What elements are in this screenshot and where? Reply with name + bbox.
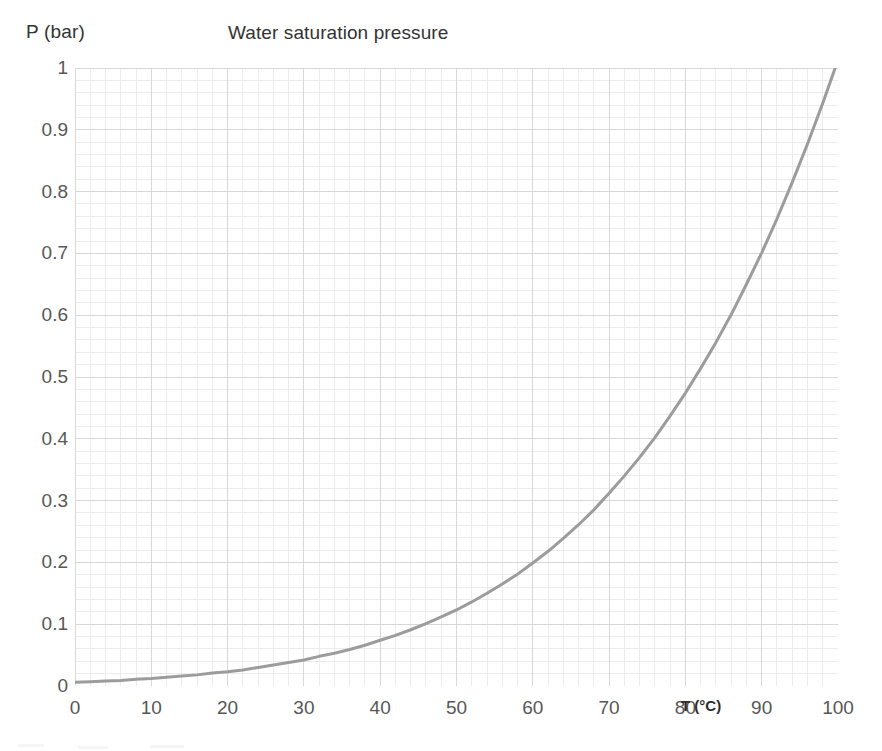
y-tick-label: 0.7 <box>8 242 68 264</box>
y-tick-label: 0.4 <box>8 428 68 450</box>
chart-title: Water saturation pressure <box>228 22 448 44</box>
x-axis-caption: T (°C) <box>681 697 721 714</box>
scan-artifact <box>78 746 108 749</box>
y-tick-label: 0 <box>8 675 68 697</box>
plot-area <box>75 68 838 686</box>
y-tick-label: 0.1 <box>8 613 68 635</box>
plot-canvas <box>75 68 838 686</box>
y-axis-tick-labels: 00.10.20.30.40.50.60.70.80.91 <box>0 0 68 751</box>
x-tick-label: 100 <box>822 697 854 719</box>
y-tick-label: 0.5 <box>8 366 68 388</box>
y-tick-label: 0.9 <box>8 119 68 141</box>
x-tick-label: 0 <box>70 697 81 719</box>
chart-figure: P (bar) Water saturation pressure 00.10.… <box>0 0 882 751</box>
y-tick-label: 0.3 <box>8 490 68 512</box>
y-tick-label: 0.2 <box>8 551 68 573</box>
y-tick-label: 0.6 <box>8 304 68 326</box>
scan-artifact <box>18 744 44 747</box>
x-tick-label: 90 <box>751 697 772 719</box>
x-tick-label: 10 <box>141 697 162 719</box>
x-tick-label: 40 <box>370 697 391 719</box>
scan-artifact <box>150 745 184 748</box>
x-tick-label: 60 <box>522 697 543 719</box>
y-tick-label: 0.8 <box>8 181 68 203</box>
x-tick-label: 50 <box>446 697 467 719</box>
x-tick-label: 30 <box>293 697 314 719</box>
major-gridlines <box>75 68 838 686</box>
x-tick-label: 70 <box>599 697 620 719</box>
y-tick-label: 1 <box>8 57 68 79</box>
x-tick-label: 20 <box>217 697 238 719</box>
